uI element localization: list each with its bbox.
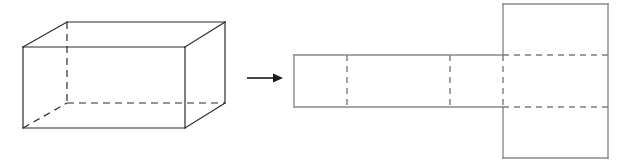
figure-canvas: Rectangular prism unfolded into its net … <box>0 0 626 166</box>
canvas-background <box>0 0 626 166</box>
diagram-svg <box>0 0 626 166</box>
